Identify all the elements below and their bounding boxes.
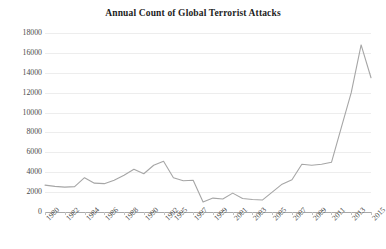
x-axis-tick-mark xyxy=(262,212,263,215)
x-axis-tick-mark xyxy=(361,212,362,215)
x-axis-tick-mark xyxy=(154,212,155,215)
x-axis-tick-mark xyxy=(203,212,204,215)
x-axis-tick-mark xyxy=(55,212,56,215)
x-axis-tick-mark xyxy=(134,212,135,215)
x-axis-tick-mark xyxy=(322,212,323,215)
x-axis-tick-mark xyxy=(114,212,115,215)
x-axis-tick-mark xyxy=(75,212,76,215)
x-axis-tick-mark xyxy=(183,212,184,215)
x-axis-tick-mark xyxy=(243,212,244,215)
x-axis-tick-mark xyxy=(302,212,303,215)
x-axis-tick-mark xyxy=(341,212,342,215)
chart-container: Annual Count of Global Terrorist Attacks… xyxy=(0,0,386,249)
x-axis-tick-mark xyxy=(223,212,224,215)
x-axis-tick-mark xyxy=(94,212,95,215)
x-axis-tick-mark xyxy=(282,212,283,215)
